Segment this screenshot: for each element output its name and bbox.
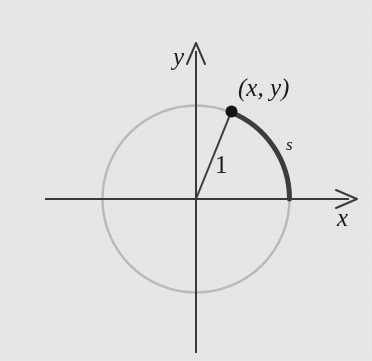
arc-length-label: s <box>286 136 293 153</box>
point-coordinate-label: (x, y) <box>238 75 289 100</box>
figure-canvas <box>0 0 372 361</box>
x-axis-label: x <box>337 205 348 230</box>
highlighted-arc <box>231 112 290 199</box>
unit-circle-figure: y x (x, y) 1 s <box>0 0 372 361</box>
y-axis-label: y <box>173 44 184 69</box>
point-marker <box>226 106 238 118</box>
radius-length-label: 1 <box>215 152 228 177</box>
